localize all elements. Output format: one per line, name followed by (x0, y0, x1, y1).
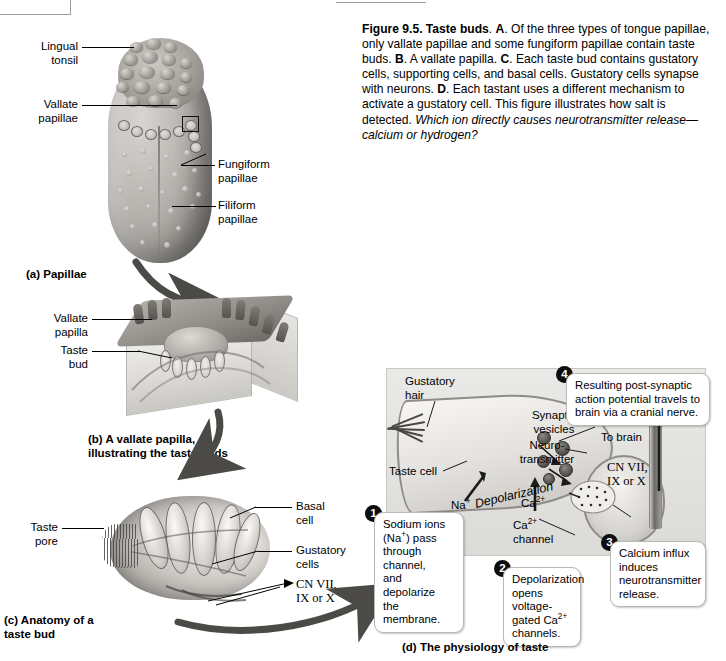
label-calcium-channel: Ca2+channel (513, 519, 553, 546)
panel-c-caption: (c) Anatomy of a taste bud (4, 613, 94, 641)
label-vallate-papillae: Vallate papillae (6, 98, 78, 125)
label-gustatory-hair: Gustatory hair (405, 375, 455, 402)
panel-d-caption: (d) The physiology of taste (402, 640, 548, 654)
label-vallate-papilla: Vallate papilla (22, 312, 88, 339)
leader-taste-bud-tick (136, 344, 186, 364)
crop-mark-box (0, 0, 71, 15)
callout-step-2: Depolarizationopens voltage-gated Ca2+ch… (503, 567, 581, 647)
label-to-brain: To brain (601, 431, 642, 445)
label-gustatory-cells: Gustatory cells (296, 544, 372, 571)
ion-calcium: Ca2+ (521, 497, 545, 509)
label-taste-bud: Taste bud (28, 344, 88, 371)
callout-step-1: Sodium ions(Na+) passthrough channel,and… (374, 512, 464, 633)
leader-taste-pore (62, 528, 104, 529)
leader-filiform-papillae (172, 206, 216, 207)
leader-vallate-papilla (92, 319, 152, 320)
label-lingual-tonsil: Lingual tonsil (12, 40, 78, 67)
label-basal-cell: Basal cell (296, 500, 366, 527)
label-cranial-nerves-d: CN VII, IX or X (607, 461, 648, 488)
leader-fungiform-tick (176, 150, 220, 174)
arrow-b-to-c (178, 410, 268, 488)
callout-3-text: Calcium influx induces neurotransmitter … (619, 547, 701, 600)
tongue-illustration (96, 30, 226, 265)
callout-4-text: Resulting post-synaptic action potential… (575, 379, 700, 418)
label-fungiform-papillae: Fungiform papillae (218, 158, 298, 185)
leader-taste-bud (92, 351, 140, 352)
crop-mark-box-2 (336, 0, 426, 3)
callout-step-4: Resulting post-synaptic action potential… (566, 373, 710, 426)
figure-caption: Figure 9.5. Taste buds. A. Of the three … (362, 22, 710, 143)
leader-gustatory-tick (210, 540, 280, 570)
label-taste-cell: Taste cell (389, 465, 437, 479)
label-neurotransmitter: Neuro- transmitter (499, 439, 595, 466)
leader-vallate-papillae (82, 105, 177, 106)
leader-basal-tick (228, 496, 288, 522)
ion-sodium: Na+ (451, 499, 471, 511)
label-filiform-papillae: Filiform papillae (218, 199, 298, 226)
vallate-zoom-box (182, 116, 199, 132)
figure-page: Figure 9.5. Taste buds. A. Of the three … (0, 0, 726, 661)
panel-a-caption: (a) Papillae (26, 267, 87, 281)
callout-step-3: Calcium influx induces neurotransmitter … (610, 541, 706, 607)
leader-lingual-tonsil (82, 47, 134, 48)
label-taste-pore: Taste pore (4, 521, 58, 548)
